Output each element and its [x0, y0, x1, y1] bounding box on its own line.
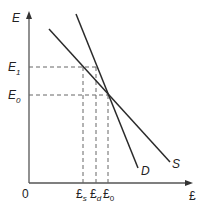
origin-label: 0 [22, 187, 29, 201]
x-axis-arrow-icon [185, 180, 193, 186]
ld-label: £d [90, 187, 102, 203]
y-axis-arrow-icon [26, 11, 32, 19]
demand-label: D [141, 164, 150, 178]
l0-label: £0 [103, 187, 115, 203]
supply-demand-diagram: E £ 0 E1 E0 £s £d £0 D S [0, 0, 206, 210]
e0-label: E0 [8, 88, 21, 105]
e1-label: E1 [8, 60, 20, 77]
supply-label: S [172, 157, 180, 171]
guide-lines [29, 67, 108, 183]
demand-curve [76, 14, 138, 168]
ls-label: £s [76, 187, 87, 203]
x-axis-label: £ [189, 189, 196, 203]
y-axis-label: E [12, 11, 21, 25]
